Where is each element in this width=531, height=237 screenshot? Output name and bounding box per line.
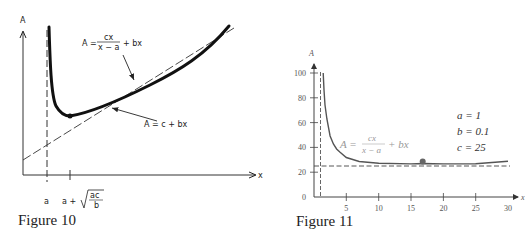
tick-label-a: a — [44, 197, 49, 206]
figure-11-caption: Figure 11 — [296, 213, 353, 230]
y-tick-0: 0 — [302, 193, 306, 202]
figure-11: 0 20 40 60 80 100 5 10 15 20 25 30 A x A… — [270, 0, 531, 237]
figure-10-caption: Figure 10 — [18, 212, 76, 229]
x-axis-label: x — [258, 171, 263, 180]
tick-label-minimum: a + ac b — [62, 190, 104, 210]
param-b: b = 0.1 — [457, 125, 489, 137]
asymptote-label: A = c + bx — [144, 120, 188, 129]
svg-text:b: b — [94, 201, 99, 210]
minimum-point — [68, 114, 73, 119]
y-axis-label: A — [20, 16, 26, 25]
svg-text:x − a: x − a — [361, 145, 382, 155]
y-tick-20: 20 — [298, 168, 306, 177]
svg-text:+ bx: + bx — [123, 39, 142, 48]
figure-10-plot: A x A = cx x − a + bx A = c + bx a a + a… — [0, 0, 270, 237]
x-tick-30: 30 — [504, 204, 512, 213]
x-tick-25: 25 — [472, 204, 480, 213]
y-tick-40: 40 — [298, 143, 306, 152]
param-a: a = 1 — [457, 109, 481, 121]
x-tick-15: 15 — [407, 204, 415, 213]
figure-10: A x A = cx x − a + bx A = c + bx a a + a… — [0, 0, 270, 237]
x-tick-5: 5 — [344, 204, 348, 213]
x-tick-20: 20 — [439, 204, 447, 213]
svg-text:x − a: x − a — [98, 43, 120, 52]
svg-text:A =: A = — [82, 39, 97, 48]
y-tick-100: 100 — [294, 69, 306, 78]
minimum-point — [420, 159, 426, 165]
curve-formula-label: A = cx x − a + bx — [82, 33, 142, 52]
svg-text:ac: ac — [90, 191, 99, 200]
x-axis-label: x — [520, 193, 525, 202]
svg-text:A =: A = — [339, 138, 357, 150]
y-axis-label: A — [308, 49, 314, 58]
svg-text:cx: cx — [104, 33, 113, 42]
figure-11-plot: 0 20 40 60 80 100 5 10 15 20 25 30 A x A… — [270, 0, 531, 237]
svg-text:a +: a + — [62, 197, 76, 206]
y-tick-80: 80 — [298, 94, 306, 103]
formula-label: A = cx x − a + bx — [339, 133, 409, 155]
svg-text:+ bx: + bx — [388, 138, 409, 150]
param-c: c = 25 — [457, 141, 486, 153]
y-tick-60: 60 — [298, 119, 306, 128]
x-tick-10: 10 — [375, 204, 383, 213]
svg-text:cx: cx — [368, 133, 376, 143]
